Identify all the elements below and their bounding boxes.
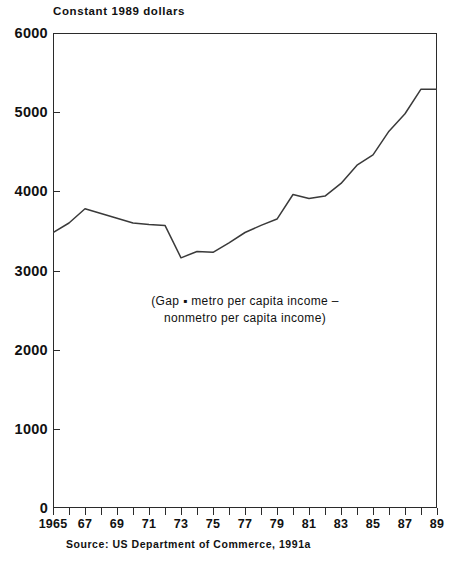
x-axis-tick-label: 79 [270, 517, 284, 531]
series-layer [53, 33, 437, 508]
annotation-line-1: (Gap ▪ metro per capita income – [151, 294, 339, 308]
x-axis-tick-label: 1965 [39, 517, 68, 531]
x-axis-tick-label: 69 [110, 517, 124, 531]
x-axis-tick-label: 73 [174, 517, 188, 531]
y-axis-tick-mark [53, 191, 60, 192]
annotation-line-2: nonmetro per capita income) [53, 310, 437, 327]
y-axis-tick-label: 4000 [0, 183, 48, 199]
y-axis-tick-mark [53, 429, 60, 430]
x-axis-tick-mark [421, 508, 422, 515]
x-axis-tick-mark [373, 508, 374, 515]
x-axis-tick-mark [261, 508, 262, 515]
x-axis-tick-mark [245, 508, 246, 515]
x-axis-tick-label: 85 [366, 517, 380, 531]
x-axis-tick-label: 77 [238, 517, 252, 531]
y-axis-tick-label: 3000 [0, 263, 48, 279]
x-axis-tick-mark [277, 508, 278, 515]
x-axis-tick-mark [325, 508, 326, 515]
x-axis-tick-mark [165, 508, 166, 515]
chart-title: Constant 1989 dollars [53, 5, 185, 17]
chart-figure: Constant 1989 dollars 010002000300040005… [0, 0, 462, 561]
x-axis-tick-mark [85, 508, 86, 515]
y-axis-tick-label: 2000 [0, 342, 48, 358]
x-axis-tick-mark [389, 508, 390, 515]
y-axis-tick-label: 1000 [0, 421, 48, 437]
x-axis-tick-mark [437, 508, 438, 515]
y-axis-tick-label: 5000 [0, 104, 48, 120]
x-axis-tick-mark [309, 508, 310, 515]
x-axis-tick-mark [357, 508, 358, 515]
x-axis-tick-mark [69, 508, 70, 515]
x-axis-tick-label: 81 [302, 517, 316, 531]
x-axis-tick-label: 89 [430, 517, 444, 531]
x-axis-tick-label: 87 [398, 517, 412, 531]
x-axis-tick-mark [117, 508, 118, 515]
source-note: Source: US Department of Commerce, 1991a [66, 538, 311, 550]
x-axis-tick-label: 67 [78, 517, 92, 531]
x-axis-tick-mark [101, 508, 102, 515]
x-axis-tick-mark [341, 508, 342, 515]
y-axis-tick-label: 6000 [0, 25, 48, 41]
x-axis-tick-mark [53, 508, 54, 515]
y-axis-tick-mark [53, 112, 60, 113]
x-axis-tick-mark [405, 508, 406, 515]
y-axis-tick-mark [53, 271, 60, 272]
x-axis-tick-mark [181, 508, 182, 515]
x-axis-tick-label: 75 [206, 517, 220, 531]
y-axis-label-group: 0100020003000400050006000 [0, 0, 48, 561]
y-axis-tick-label: 0 [0, 500, 48, 516]
gap-definition-annotation: (Gap ▪ metro per capita income – nonmetr… [53, 293, 437, 327]
x-axis-tick-label: 71 [142, 517, 156, 531]
income-gap-line [53, 89, 437, 258]
x-axis-tick-mark [149, 508, 150, 515]
x-axis-tick-mark [133, 508, 134, 515]
x-axis-tick-mark [213, 508, 214, 515]
x-axis-tick-label: 83 [334, 517, 348, 531]
x-axis-tick-mark [197, 508, 198, 515]
y-axis-tick-mark [53, 350, 60, 351]
x-axis-tick-mark [229, 508, 230, 515]
x-axis-tick-mark [293, 508, 294, 515]
